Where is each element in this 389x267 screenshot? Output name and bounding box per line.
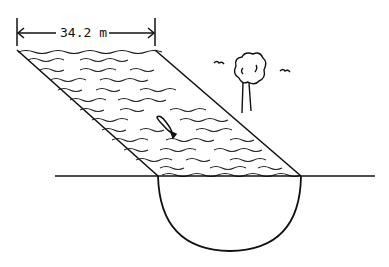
bird-icon — [214, 62, 224, 65]
dimension-label: 34.2 m — [58, 26, 109, 40]
diagram-canvas: 34.2 m — [0, 0, 389, 267]
water-waves — [28, 59, 300, 177]
bird-icons — [214, 62, 290, 73]
hemispherical-basin — [158, 176, 301, 251]
fish-icon — [157, 116, 176, 138]
river-channel — [17, 50, 301, 176]
tree-icon — [235, 53, 266, 113]
bird-icon — [280, 70, 290, 73]
